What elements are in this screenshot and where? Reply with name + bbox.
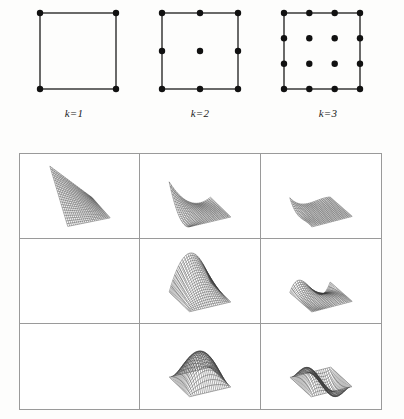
node-diagram-k1: k=1 <box>12 0 136 148</box>
surface-plot-edge-k3 <box>261 239 381 324</box>
node-diagram-k1-label: k=1 <box>12 107 136 119</box>
surface-plot-vertex-k2 <box>140 154 260 239</box>
surface-cell-r0c1 <box>140 154 260 239</box>
node-diagram-k2-svg <box>138 0 262 105</box>
surface-cell-r1c2 <box>261 239 381 324</box>
surface-cell-r1c0 <box>20 239 140 324</box>
surface-plot-interior-k2 <box>140 324 260 409</box>
node-diagram-k2-label: k=2 <box>138 107 262 119</box>
surface-cell-r2c0 <box>20 324 140 409</box>
surface-cell-r1c1 <box>140 239 260 324</box>
surface-cell-r2c1 <box>140 324 260 409</box>
surface-plot-vertex-k3 <box>261 154 381 239</box>
node-diagram-k3-svg <box>264 0 392 105</box>
surface-plot-interior-k3 <box>261 324 381 409</box>
surface-cell-r2c2 <box>261 324 381 409</box>
node-diagram-k3: k=3 <box>264 0 392 148</box>
node-diagram-k1-svg <box>12 0 136 105</box>
surface-cell-r0c0 <box>20 154 140 239</box>
node-diagram-k2: k=2 <box>138 0 262 148</box>
node-diagram-row: k=1 k=2 <box>0 0 404 148</box>
surface-cell-r0c2 <box>261 154 381 239</box>
figure-page: k=1 k=2 <box>0 0 404 419</box>
surface-plot-vertex-k1 <box>20 154 140 239</box>
node-diagram-k3-label: k=3 <box>264 107 392 119</box>
surface-plot-edge-k2 <box>140 239 260 324</box>
surface-plot-table <box>19 153 382 410</box>
